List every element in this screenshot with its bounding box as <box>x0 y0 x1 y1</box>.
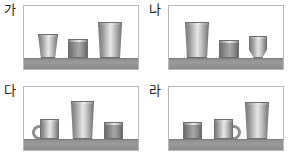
cup-comparison-figure: 가 나 다 라 <box>0 0 289 161</box>
cup-stem-highlight <box>257 41 259 53</box>
cup-rim <box>183 122 202 125</box>
cup-rim <box>249 36 267 39</box>
panel-label: 라 <box>149 84 161 98</box>
cup-rim <box>245 102 269 105</box>
panel-label: 가 <box>4 3 16 17</box>
cup-mug-handle-right <box>214 119 233 139</box>
cup-small-straight <box>183 122 202 139</box>
panel-label: 다 <box>4 84 16 98</box>
scene-box <box>23 86 139 151</box>
cup-tall-tumbler <box>245 102 269 139</box>
shelf <box>169 139 283 150</box>
cup-body <box>185 22 209 58</box>
panel-ra: 라 <box>145 81 289 161</box>
cup-mug-handle-left <box>40 119 59 139</box>
cup-rim <box>40 119 59 122</box>
cup-rim <box>38 34 58 37</box>
shelf <box>24 58 138 69</box>
panel-label: 나 <box>149 3 161 17</box>
cup-body <box>71 101 94 139</box>
shelf <box>169 58 283 69</box>
cup-rim <box>214 119 233 122</box>
cup-small-straight <box>104 122 123 139</box>
cup-rim <box>98 22 122 25</box>
cup-rim <box>71 101 94 104</box>
cup-tall-tumbler <box>71 101 94 139</box>
cup-body <box>98 22 122 58</box>
scene-box <box>168 5 284 70</box>
cup-body <box>40 119 59 139</box>
panel-ga: 가 <box>0 0 144 80</box>
cup-rim <box>104 122 123 125</box>
cup-small-tapered <box>38 34 58 58</box>
cup-rim <box>219 40 239 43</box>
scene-box <box>168 86 284 151</box>
cup-body <box>214 119 233 139</box>
cup-goblet <box>249 36 267 58</box>
scene-box <box>23 5 139 70</box>
cup-medium-straight <box>219 40 239 58</box>
cup-body <box>245 102 269 139</box>
panel-da: 다 <box>0 81 144 161</box>
cup-tall-tumbler <box>185 22 209 58</box>
cup-medium-straight <box>68 39 88 58</box>
cup-body <box>38 34 58 58</box>
cup-rim <box>68 39 88 42</box>
cup-rim <box>185 22 209 25</box>
cup-body <box>249 36 267 58</box>
panel-na: 나 <box>145 0 289 80</box>
cup-tall-tumbler <box>98 22 122 58</box>
shelf <box>24 139 138 150</box>
